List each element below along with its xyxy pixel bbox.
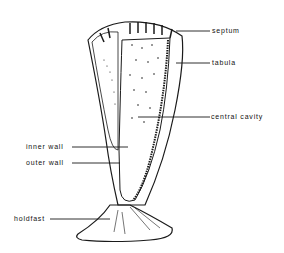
label-holdfast: holdfast xyxy=(14,215,45,222)
label-tabula: tabula xyxy=(212,59,236,66)
label-central-cavity: central cavity xyxy=(211,113,263,120)
label-inner-wall: inner wall xyxy=(26,143,64,150)
outer-wall-shape xyxy=(88,22,183,205)
holdfast-shape xyxy=(77,205,173,242)
pores xyxy=(103,44,158,123)
label-outer-wall: outer wall xyxy=(26,159,64,166)
label-septum: septum xyxy=(212,27,240,34)
leader-lines xyxy=(50,31,210,219)
